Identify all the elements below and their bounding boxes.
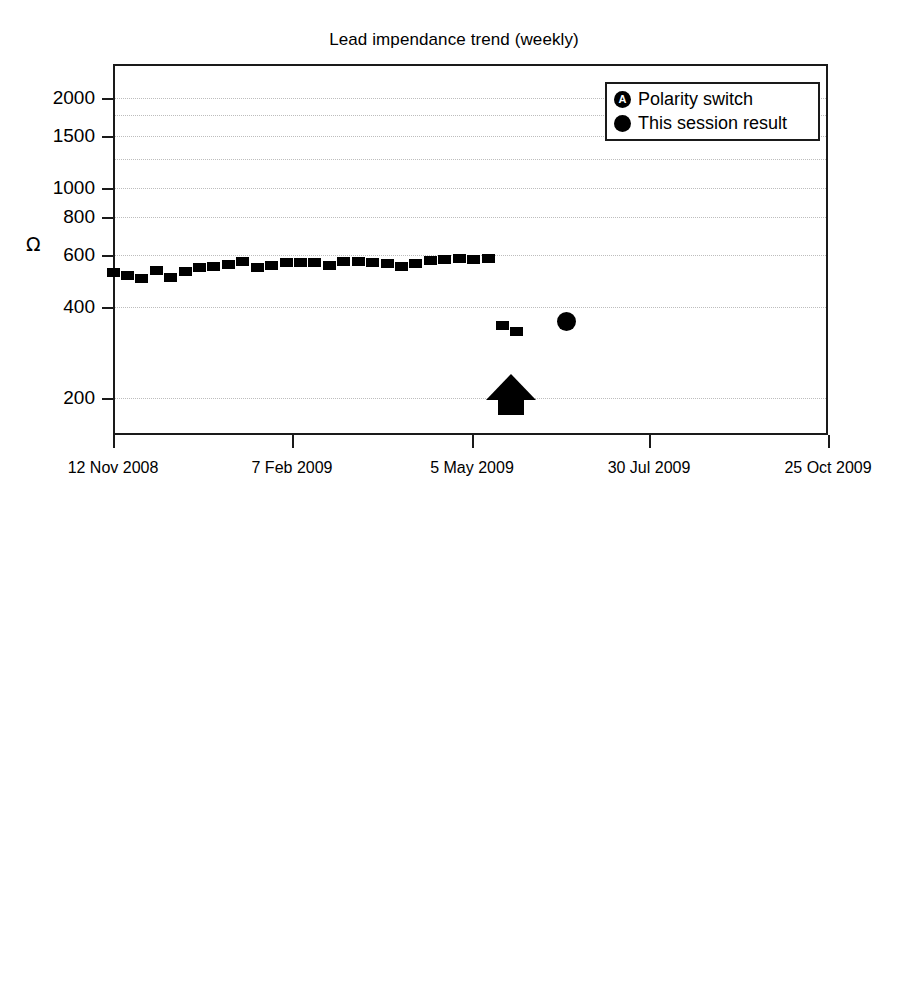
impedance-chart-title: Lead impendance trend (weekly) bbox=[0, 30, 908, 50]
x-axis-tick-label: 7 Feb 2009 bbox=[207, 460, 377, 476]
arrow-tail bbox=[498, 399, 524, 415]
legend-label-session-result: This session result bbox=[638, 114, 787, 132]
data-point-marker bbox=[294, 258, 307, 267]
data-point-marker bbox=[179, 267, 192, 276]
data-point-marker bbox=[496, 321, 509, 330]
legend-label-polarity-switch: Polarity switch bbox=[638, 90, 753, 108]
y-axis-tick-mark bbox=[102, 307, 113, 309]
gridline bbox=[115, 188, 826, 189]
impedance-legend: A Polarity switch This session result bbox=[605, 82, 820, 141]
polarity-switch-icon: A bbox=[614, 91, 631, 108]
data-point-marker bbox=[236, 257, 249, 266]
legend-item-session-result: This session result bbox=[614, 111, 809, 135]
y-axis-tick-label: 800 bbox=[0, 207, 95, 226]
y-axis-tick-mark bbox=[102, 398, 113, 400]
data-point-marker bbox=[207, 262, 220, 271]
x-axis-tick-label: 5 May 2009 bbox=[387, 460, 557, 476]
x-axis-tick-mark bbox=[828, 435, 830, 448]
data-point-marker bbox=[467, 255, 480, 264]
x-axis-tick-label: 30 Jul 2009 bbox=[564, 460, 734, 476]
x-axis-tick-label: 12 Nov 2008 bbox=[28, 460, 198, 476]
data-point-marker bbox=[280, 258, 293, 267]
data-point-marker bbox=[164, 273, 177, 282]
data-point-marker bbox=[251, 263, 264, 272]
data-point-marker bbox=[265, 261, 278, 270]
gridline bbox=[115, 398, 826, 399]
data-point-marker bbox=[308, 258, 321, 267]
gridline bbox=[115, 159, 826, 160]
data-point-marker bbox=[193, 263, 206, 272]
data-point-marker bbox=[453, 254, 466, 263]
x-axis-tick-mark bbox=[472, 435, 474, 448]
data-point-marker bbox=[424, 256, 437, 265]
x-axis-tick-mark bbox=[113, 435, 115, 448]
data-point-marker bbox=[222, 260, 235, 269]
data-point-marker bbox=[323, 261, 336, 270]
y-axis-tick-label: 1000 bbox=[0, 178, 95, 197]
session-result-marker bbox=[557, 312, 576, 331]
y-axis-tick-mark bbox=[102, 136, 113, 138]
x-axis-tick-label: 25 Oct 2009 bbox=[743, 460, 908, 476]
data-point-marker bbox=[409, 259, 422, 268]
data-point-marker bbox=[395, 262, 408, 271]
amplitude-chart-panel: Ventricular amplitude trend (weekly) mVo… bbox=[0, 495, 908, 985]
data-point-marker bbox=[366, 258, 379, 267]
data-point-marker bbox=[438, 255, 451, 264]
trend-report-page: Lead impendance trend (weekly) Ω 2004006… bbox=[0, 0, 908, 985]
x-axis-tick-mark bbox=[649, 435, 651, 448]
y-axis-tick-label: 2000 bbox=[0, 88, 95, 107]
data-point-marker bbox=[121, 271, 134, 280]
data-point-marker bbox=[510, 327, 523, 336]
data-point-marker bbox=[135, 274, 148, 283]
data-point-marker bbox=[482, 254, 495, 263]
data-point-marker bbox=[352, 257, 365, 266]
gridline bbox=[115, 307, 826, 308]
data-point-marker bbox=[150, 266, 163, 275]
y-axis-tick-mark bbox=[102, 217, 113, 219]
y-axis-tick-mark bbox=[102, 188, 113, 190]
data-point-marker bbox=[381, 259, 394, 268]
impedance-chart-panel: Lead impendance trend (weekly) Ω 2004006… bbox=[0, 0, 908, 495]
x-axis-tick-mark bbox=[292, 435, 294, 448]
session-result-icon bbox=[614, 115, 631, 132]
arrow-head bbox=[486, 374, 536, 400]
y-axis-tick-label: 200 bbox=[0, 388, 95, 407]
data-point-marker bbox=[337, 257, 350, 266]
legend-item-polarity-switch: A Polarity switch bbox=[614, 87, 809, 111]
y-axis-tick-mark bbox=[102, 255, 113, 257]
data-point-marker bbox=[107, 268, 120, 277]
y-axis-tick-mark bbox=[102, 98, 113, 100]
y-axis-tick-label: 1500 bbox=[0, 126, 95, 145]
polarity-switch-arrow-marker bbox=[486, 374, 536, 415]
gridline bbox=[115, 217, 826, 218]
y-axis-tick-label: 600 bbox=[0, 245, 95, 264]
y-axis-tick-label: 400 bbox=[0, 297, 95, 316]
